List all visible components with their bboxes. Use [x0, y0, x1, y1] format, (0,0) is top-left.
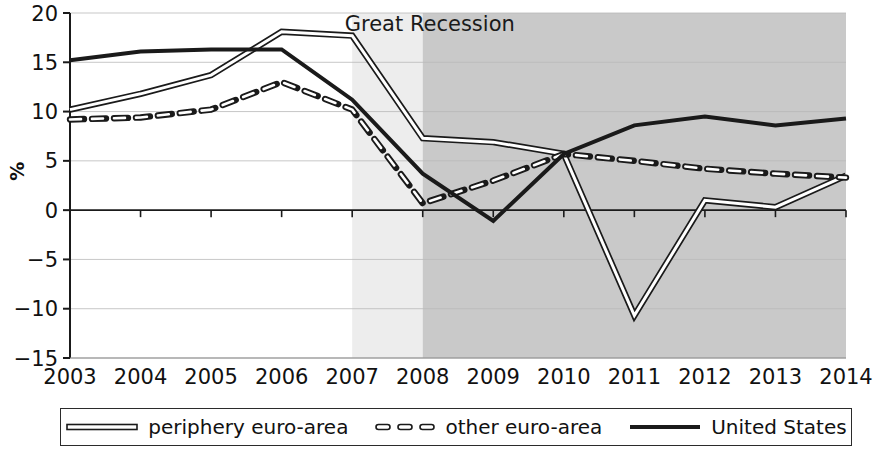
- x-tick-label: 2004: [114, 365, 167, 389]
- y-tick-label: 5: [45, 149, 58, 173]
- chart-annotations: Great Recession: [345, 12, 515, 36]
- chart-legend: periphery euro-area other euro-area Unit…: [60, 408, 852, 446]
- x-tick-label: 2007: [325, 365, 378, 389]
- legend-label-periphery-euro-area: periphery euro-area: [148, 415, 348, 439]
- annotation-great-recession: Great Recession: [345, 12, 515, 36]
- y-tick-label: 10: [31, 100, 58, 124]
- y-axis-tick-labels: 20151050−5−10−15: [14, 2, 70, 371]
- x-tick-label: 2003: [43, 365, 96, 389]
- y-tick-label: −5: [27, 248, 58, 272]
- legend-swatch-double-line-icon: [65, 420, 139, 434]
- x-tick-label: 2014: [819, 365, 872, 389]
- y-tick-label: −10: [14, 297, 58, 321]
- x-tick-label: 2012: [678, 365, 731, 389]
- chart-plot-area: 20151050−5−10−15 20032004200520062007200…: [0, 0, 873, 400]
- legend-label-other-euro-area: other euro-area: [445, 415, 602, 439]
- x-tick-label: 2011: [608, 365, 661, 389]
- x-tick-label: 2010: [537, 365, 590, 389]
- y-tick-label: 15: [31, 51, 58, 75]
- y-tick-label: 0: [45, 199, 58, 223]
- legend-item-united-states[interactable]: United States: [628, 415, 846, 439]
- legend-item-periphery-euro-area[interactable]: periphery euro-area: [65, 415, 348, 439]
- y-axis-title: %: [6, 156, 28, 186]
- x-tick-label: 2005: [184, 365, 237, 389]
- shaded-regions: [352, 13, 846, 358]
- legend-swatch-solid-line-icon: [628, 420, 702, 434]
- chart-figure: 20151050−5−10−15 20032004200520062007200…: [0, 0, 873, 449]
- x-tick-label: 2006: [255, 365, 308, 389]
- y-tick-label: 20: [31, 2, 58, 26]
- x-tick-label: 2008: [396, 365, 449, 389]
- legend-item-other-euro-area[interactable]: other euro-area: [374, 415, 602, 439]
- line-chart-svg: 20151050−5−10−15 20032004200520062007200…: [0, 0, 873, 400]
- legend-swatch-dashed-line-icon: [374, 420, 436, 434]
- x-tick-label: 2009: [467, 365, 520, 389]
- legend-label-united-states: United States: [711, 415, 846, 439]
- x-tick-label: 2013: [749, 365, 802, 389]
